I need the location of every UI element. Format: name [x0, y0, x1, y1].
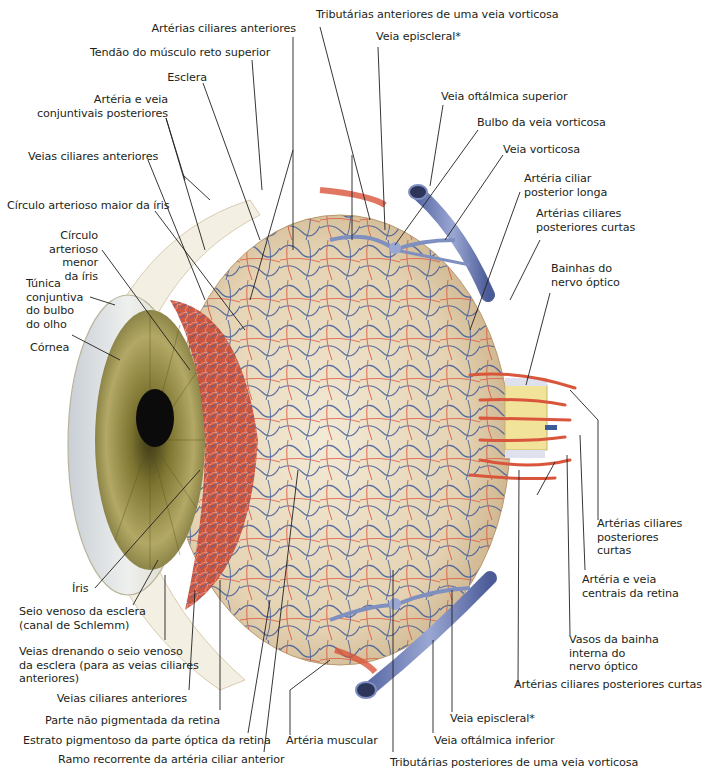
label-veias-ciliares-anteriores-top: Veias ciliares anteriores [28, 150, 158, 164]
label-arteria-veia-centrais: Artéria e veia centrais da retina [582, 573, 679, 600]
label-estrato-pigmentoso: Estrato pigmentoso da parte óptica da re… [23, 734, 271, 748]
label-arterias-ciliares-posteriores-curtas-bottom: Artérias ciliares posteriores curtas [514, 678, 702, 692]
label-seio-venoso: Seio venoso da esclera (canal de Schlemm… [19, 605, 146, 632]
label-veia-oftalmica-superior: Veia oftálmica superior [441, 90, 567, 104]
label-tributarias-anteriores: Tributárias anteriores de uma veia vorti… [316, 8, 558, 22]
label-cornea: Córnea [30, 341, 69, 355]
label-veia-oftalmica-inferior: Veia oftálmica inferior [434, 734, 555, 748]
label-arteria-ciliar-posterior-longa: Artéria ciliar posterior longa [524, 172, 607, 199]
label-veia-vorticosa: Veia vorticosa [503, 143, 580, 157]
label-vasos-bainha-interna: Vasos da bainha interna do nervo óptico [569, 633, 659, 674]
label-arteria-veia-conjuntivais: Artéria e veia conjuntivais posteriores [30, 93, 168, 120]
label-circulo-menor: Círculo arterioso menor da íris [10, 229, 98, 283]
label-ramo-recorrente: Ramo recorrente da artéria ciliar anteri… [58, 753, 284, 767]
label-iris: Íris [72, 582, 88, 596]
label-arterias-ciliares-posteriores-curtas-mid: Artérias ciliares posteriores curtas [597, 517, 682, 558]
superior-rectus-tendon [320, 190, 385, 205]
label-arterias-ciliares-posteriores-curtas-top: Artérias ciliares posteriores curtas [536, 207, 635, 234]
label-arterias-ciliares-anteriores-top: Artérias ciliares anteriores [150, 22, 296, 36]
label-veia-episcleral-bottom: Veia episcleral* [450, 712, 535, 726]
label-parte-nao-pigmentada: Parte não pigmentada da retina [40, 714, 220, 728]
label-tunica-conjuntiva: Túnica conjuntiva do bulbo do olho [26, 277, 83, 331]
pupil [136, 389, 174, 447]
label-tributarias-posteriores: Tributárias posteriores de uma veia vort… [390, 756, 638, 770]
label-bainhas-nervo-optico: Bainhas do nervo óptico [551, 262, 620, 289]
label-veias-drenando: Veias drenando o seio venoso da esclera … [19, 645, 199, 686]
label-bulbo-veia-vorticosa: Bulbo da veia vorticosa [477, 116, 606, 130]
label-veias-ciliares-anteriores-bottom: Veias ciliares anteriores [40, 692, 187, 706]
iris [95, 310, 205, 570]
label-circulo-maior: Círculo arterioso maior da íris [7, 199, 169, 213]
label-veia-episcleral-top: Veia episcleral* [376, 30, 461, 44]
label-esclera: Esclera [150, 71, 207, 85]
label-tendao-reto-superior: Tendão do músculo reto superior [90, 46, 258, 60]
label-arteria-muscular: Artéria muscular [286, 734, 378, 748]
